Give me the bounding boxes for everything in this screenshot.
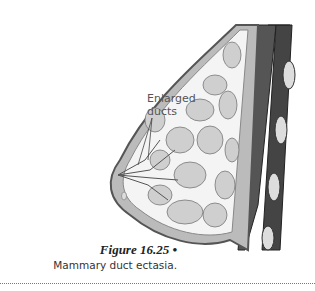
figure-title: Figure 16.25 • <box>53 242 177 258</box>
dotted-divider <box>0 283 315 284</box>
enlarged-ducts-label: Enlarged ducts <box>147 92 196 118</box>
figure-caption: Figure 16.25 • Mammary duct ectasia. <box>53 242 177 271</box>
figure-description: Mammary duct ectasia. <box>53 259 177 271</box>
